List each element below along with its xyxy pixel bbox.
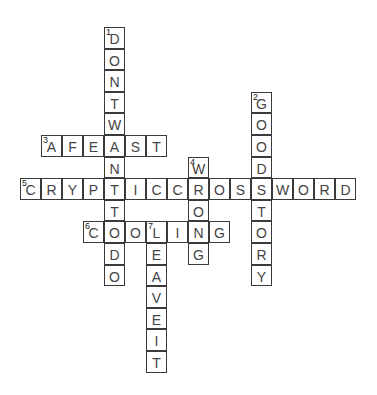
cell-letter: C — [21, 182, 40, 198]
crossword-cell[interactable]: F — [62, 135, 83, 157]
crossword-cell[interactable]: N — [188, 221, 209, 243]
cell-letter: T — [105, 204, 124, 220]
crossword-cell[interactable]: C — [167, 178, 188, 200]
cell-letter: S — [252, 182, 271, 198]
cell-letter: T — [105, 182, 124, 198]
crossword-cell[interactable]: W — [272, 178, 293, 200]
crossword-cell[interactable]: I — [146, 329, 167, 351]
crossword-cell[interactable]: 5C — [20, 178, 41, 200]
crossword-cell[interactable]: E — [83, 135, 104, 157]
cell-letter: I — [126, 182, 145, 198]
cell-letter: C — [168, 182, 187, 198]
crossword-cell[interactable]: O — [188, 200, 209, 222]
crossword-cell[interactable]: V — [146, 286, 167, 308]
cell-letter: Y — [252, 269, 271, 285]
cell-letter: I — [147, 333, 166, 349]
cell-letter: E — [84, 139, 103, 155]
crossword-cell[interactable]: G — [209, 221, 230, 243]
cell-letter: R — [252, 247, 271, 263]
cell-letter: R — [189, 182, 208, 198]
cell-letter: G — [252, 96, 271, 112]
crossword-cell[interactable]: Y — [62, 178, 83, 200]
crossword-cell[interactable]: O — [293, 178, 314, 200]
crossword-cell[interactable]: T — [104, 200, 125, 222]
cell-letter: D — [105, 31, 124, 47]
crossword-cell[interactable]: O — [125, 221, 146, 243]
crossword-cell[interactable]: T — [251, 200, 272, 222]
cell-letter: O — [189, 204, 208, 220]
cell-letter: C — [84, 225, 103, 241]
crossword-cell[interactable]: E — [146, 243, 167, 265]
cell-letter: O — [105, 269, 124, 285]
cell-letter: V — [147, 290, 166, 306]
crossword-cell[interactable]: P — [83, 178, 104, 200]
crossword-cell[interactable]: O — [251, 113, 272, 135]
cell-letter: G — [210, 225, 229, 241]
cell-letter: Y — [63, 182, 82, 198]
cell-letter: O — [252, 139, 271, 155]
crossword-cell[interactable]: E — [146, 308, 167, 330]
crossword-cell[interactable]: T — [146, 135, 167, 157]
crossword-cell[interactable]: O — [104, 221, 125, 243]
cell-letter: S — [126, 139, 145, 155]
crossword-cell[interactable]: 4W — [188, 157, 209, 179]
crossword-cell[interactable]: R — [251, 243, 272, 265]
crossword-cell[interactable]: R — [188, 178, 209, 200]
cell-letter: D — [252, 161, 271, 177]
crossword-cell[interactable]: W — [104, 113, 125, 135]
crossword-cell[interactable]: N — [104, 157, 125, 179]
crossword-cell[interactable]: D — [335, 178, 356, 200]
crossword-cell[interactable]: D — [104, 243, 125, 265]
crossword-cell[interactable]: R — [314, 178, 335, 200]
crossword-cell[interactable]: 3A — [41, 135, 62, 157]
crossword-cell[interactable]: S — [125, 135, 146, 157]
cell-letter: L — [147, 225, 166, 241]
cell-letter: O — [294, 182, 313, 198]
crossword-cell[interactable]: I — [125, 178, 146, 200]
crossword-cell[interactable]: 6C — [83, 221, 104, 243]
crossword-cell[interactable]: D — [251, 157, 272, 179]
cell-letter: O — [252, 225, 271, 241]
cell-letter: O — [105, 225, 124, 241]
crossword-cell[interactable]: 1D — [104, 27, 125, 49]
cell-letter: R — [315, 182, 334, 198]
cell-letter: T — [252, 204, 271, 220]
crossword-cell[interactable]: O — [251, 135, 272, 157]
crossword-cell[interactable]: R — [41, 178, 62, 200]
crossword-cell[interactable]: C — [146, 178, 167, 200]
cell-letter: W — [273, 182, 292, 198]
cell-letter: D — [336, 182, 355, 198]
crossword-cell[interactable]: Y — [251, 265, 272, 287]
crossword-cell[interactable]: 7L — [146, 221, 167, 243]
cell-letter: P — [84, 182, 103, 198]
cell-letter: E — [147, 247, 166, 263]
cell-letter: T — [147, 355, 166, 371]
crossword-cell[interactable]: O — [209, 178, 230, 200]
cell-letter: A — [42, 139, 61, 155]
cell-letter: I — [168, 225, 187, 241]
cell-letter: A — [105, 139, 124, 155]
crossword-cell[interactable]: T — [146, 351, 167, 373]
cell-letter: N — [105, 161, 124, 177]
crossword-cell[interactable]: A — [104, 135, 125, 157]
crossword-cell[interactable]: 2G — [251, 92, 272, 114]
crossword-cell[interactable]: O — [104, 49, 125, 71]
crossword-cell[interactable]: O — [251, 221, 272, 243]
crossword-cell[interactable]: T — [104, 178, 125, 200]
cell-letter: O — [105, 53, 124, 69]
crossword-cell[interactable]: G — [188, 243, 209, 265]
crossword-cell[interactable]: T — [104, 92, 125, 114]
cell-letter: E — [147, 312, 166, 328]
crossword-cell[interactable]: N — [104, 70, 125, 92]
crossword-cell[interactable]: I — [167, 221, 188, 243]
cell-letter: R — [42, 182, 61, 198]
crossword-cell[interactable]: A — [146, 265, 167, 287]
crossword-cell[interactable]: S — [230, 178, 251, 200]
cell-letter: S — [231, 182, 250, 198]
cell-letter: T — [105, 96, 124, 112]
cell-letter: N — [189, 225, 208, 241]
crossword-cell[interactable]: O — [104, 265, 125, 287]
crossword-cell[interactable]: S — [251, 178, 272, 200]
cell-letter: F — [63, 139, 82, 155]
cell-letter: D — [105, 247, 124, 263]
